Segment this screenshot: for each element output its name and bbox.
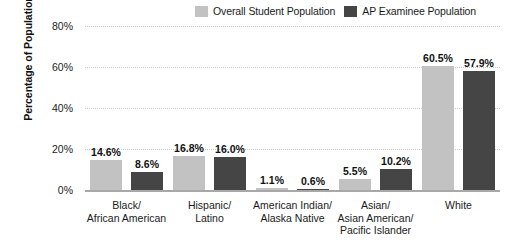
bar-column[interactable]: 0.6% [297,26,329,190]
bar-group: 60.5%57.9% [417,26,500,190]
x-axis-category-label: American Indian/ Alaska Native [251,199,334,237]
legend-item-overall-student-population: Overall Student Population [195,5,335,17]
bar-column[interactable]: 16.8% [173,26,205,190]
bar-value-label: 8.6% [135,158,159,170]
bar[interactable] [463,71,495,190]
legend-label-ap-examinee-population: AP Examinee Population [362,5,476,17]
legend-swatch-overall-student-population [195,6,208,17]
bar-column[interactable]: 10.2% [380,26,412,190]
bar-column[interactable]: 5.5% [339,26,371,190]
bar-column[interactable]: 8.6% [131,26,163,190]
bar[interactable] [256,188,288,190]
y-axis-tick-label: 0% [58,184,73,196]
bar-value-label: 14.6% [91,146,121,158]
bar[interactable] [297,189,329,190]
bar-value-label: 0.6% [301,175,325,187]
bar[interactable] [173,156,205,190]
bar-group: 1.1%0.6% [251,26,334,190]
legend-item-ap-examinee-population: AP Examinee Population [344,5,476,17]
x-axis-category-label: Hispanic/ Latino [168,199,251,237]
bar-value-label: 57.9% [464,57,494,69]
bar-chart: Overall Student Population AP Examinee P… [0,0,512,252]
bar-value-label: 1.1% [260,174,284,186]
bar-value-label: 16.0% [215,143,245,155]
legend-label-overall-student-population: Overall Student Population [213,5,335,17]
bar[interactable] [422,66,454,190]
bar-value-label: 16.8% [174,142,204,154]
bar-column[interactable]: 60.5% [422,26,454,190]
y-axis-tick-label: 20% [52,143,73,155]
bar[interactable] [380,169,412,190]
bar-column[interactable]: 16.0% [214,26,246,190]
legend-swatch-ap-examinee-population [344,6,357,17]
y-axis-tick-label: 40% [52,102,73,114]
bar[interactable] [339,179,371,190]
bar-groups: 14.6%8.6%16.8%16.0%1.1%0.6%5.5%10.2%60.5… [85,26,500,190]
x-axis-category-label: White [417,199,500,237]
bar[interactable] [90,160,122,190]
y-axis-title: Percentage of Population [22,0,34,138]
x-axis-labels: Black/ African AmericanHispanic/ LatinoA… [85,199,500,237]
bar-column[interactable]: 57.9% [463,26,495,190]
bar[interactable] [131,172,163,190]
bar-value-label: 10.2% [381,155,411,167]
bar-group: 5.5%10.2% [334,26,417,190]
bar-group: 14.6%8.6% [85,26,168,190]
y-axis-tick-label: 60% [52,61,73,73]
y-axis-tick-label: 80% [52,20,73,32]
x-axis-category-label: Black/ African American [85,199,168,237]
bar-group: 16.8%16.0% [168,26,251,190]
x-axis-category-label: Asian/ Asian American/ Pacific Islander [334,199,417,237]
x-axis-line [85,190,500,192]
bar[interactable] [214,157,246,190]
bar-column[interactable]: 14.6% [90,26,122,190]
chart-legend: Overall Student Population AP Examinee P… [195,5,476,17]
bar-column[interactable]: 1.1% [256,26,288,190]
bar-value-label: 5.5% [343,165,367,177]
bar-value-label: 60.5% [423,52,453,64]
